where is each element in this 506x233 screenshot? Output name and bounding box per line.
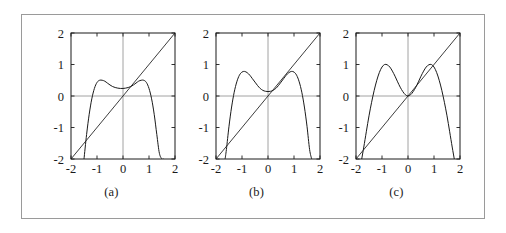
y-tick-label: 1 <box>343 58 349 72</box>
x-tick-label: 0 <box>405 162 411 176</box>
x-tick-label: -1 <box>92 162 102 176</box>
y-tick-label: -2 <box>54 153 64 167</box>
x-tick-label: 1 <box>291 162 297 176</box>
x-tick-label: 2 <box>172 162 178 176</box>
x-tick-label: 1 <box>431 162 437 176</box>
y-tick-label: 2 <box>343 27 349 41</box>
plot-svg-b: -2-1012-2-1012 <box>179 15 334 190</box>
y-tick-label: 0 <box>203 90 209 104</box>
x-tick-label: 1 <box>146 162 152 176</box>
y-tick-label: -1 <box>339 121 349 135</box>
plot-panel-c: -2-1012-2-1012 (c) <box>319 15 474 220</box>
x-tick-label: -1 <box>377 162 387 176</box>
map-curve <box>84 80 163 159</box>
x-tick-label: -2 <box>66 162 76 176</box>
y-tick-label: -1 <box>54 121 64 135</box>
y-tick-label: -2 <box>199 153 209 167</box>
x-tick-label: -2 <box>351 162 361 176</box>
plot-panel-a: -2-1012-2-1012 (a) <box>34 15 189 220</box>
plot-panel-b: -2-1012-2-1012 (b) <box>179 15 334 220</box>
plot-svg-c: -2-1012-2-1012 <box>319 15 474 190</box>
x-tick-label: -2 <box>211 162 221 176</box>
panel-caption-c: (c) <box>319 185 474 200</box>
plot-svg-a: -2-1012-2-1012 <box>34 15 189 190</box>
panel-caption-a: (a) <box>34 185 189 200</box>
y-tick-label: -1 <box>199 121 209 135</box>
y-tick-label: 0 <box>343 90 349 104</box>
y-tick-label: -2 <box>339 153 349 167</box>
x-tick-label: 0 <box>120 162 126 176</box>
y-tick-label: 1 <box>58 58 64 72</box>
panel-caption-b: (b) <box>179 185 334 200</box>
y-tick-label: 0 <box>58 90 64 104</box>
tick-labels-b: -2-1012-2-1012 <box>199 27 324 177</box>
x-tick-label: 2 <box>457 162 463 176</box>
figure-frame: -2-1012-2-1012 (a) -2-1012-2-1012 (b) -2… <box>21 14 485 219</box>
y-tick-label: 1 <box>203 58 209 72</box>
x-tick-label: -1 <box>237 162 247 176</box>
x-tick-label: 0 <box>265 162 271 176</box>
y-tick-label: 2 <box>58 27 64 41</box>
y-tick-label: 2 <box>203 27 209 41</box>
